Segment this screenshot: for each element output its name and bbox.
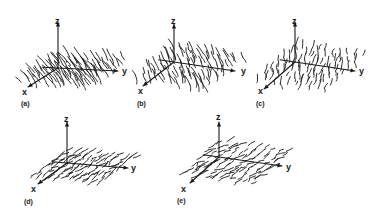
y-axis-label: y xyxy=(286,163,291,172)
dendrite-plot-e xyxy=(160,105,340,219)
x-axis-label: x xyxy=(22,88,27,97)
x-axis-label: x xyxy=(258,87,263,96)
panel-d: z y x (d) xyxy=(0,105,160,219)
panel-c: z y x (c) xyxy=(250,0,383,105)
panel-b: z y x (b) xyxy=(125,0,250,105)
x-axis-label: x xyxy=(181,185,186,194)
panel-e: z y x (e) xyxy=(160,105,340,219)
z-axis-label: z xyxy=(216,113,221,122)
y-axis-label: y xyxy=(131,164,136,173)
panel-a: z y x (a) xyxy=(0,0,125,105)
y-axis-label: y xyxy=(241,67,246,76)
y-axis-label: y xyxy=(359,67,364,76)
z-axis-label: z xyxy=(171,17,176,26)
panel-caption: (e) xyxy=(177,197,186,204)
z-axis-label: z xyxy=(292,17,297,26)
z-axis-label: z xyxy=(64,115,69,124)
dendrite-plot-c xyxy=(250,0,383,105)
dendrite-plot-b xyxy=(125,0,250,105)
x-axis-label: x xyxy=(138,87,143,96)
x-axis-label: x xyxy=(31,185,36,194)
panel-caption: (d) xyxy=(24,198,33,205)
dendrite-plot-a xyxy=(0,0,125,105)
z-axis-label: z xyxy=(55,17,60,26)
